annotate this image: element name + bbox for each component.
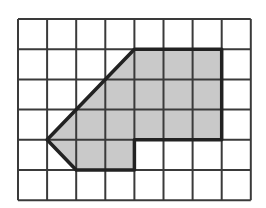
grid-diagram bbox=[0, 0, 266, 208]
